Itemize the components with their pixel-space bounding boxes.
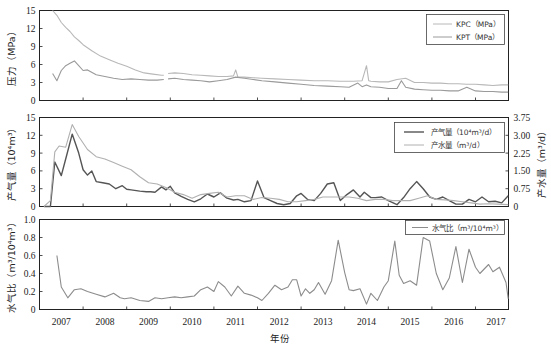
y-tick-label-right: 2.25 bbox=[514, 149, 531, 159]
y-tick-label: 9 bbox=[31, 42, 36, 52]
pressure-panel: 03691215 压力（MPa） KPC（MPa） KPT（MPa） bbox=[6, 6, 509, 106]
water-gas-ratio-panel: 00.20.40.60.81.0 20072008200920102011201… bbox=[6, 215, 509, 327]
legend-label-kpt: KPT（MPa） bbox=[456, 33, 499, 42]
y-tick-label: 6 bbox=[31, 166, 36, 176]
x-tick-label: 2007 bbox=[52, 317, 71, 327]
y-tick-label: 12 bbox=[26, 24, 36, 34]
x-tick-label: 2014 bbox=[357, 317, 376, 327]
y-tick-label: 0.4 bbox=[24, 269, 36, 279]
legend-label-kpc: KPC（MPa） bbox=[456, 20, 500, 29]
y-tick-label: 1.0 bbox=[24, 215, 36, 225]
y-tick-label: 6 bbox=[31, 60, 36, 70]
x-tick-label: 2009 bbox=[139, 317, 158, 327]
x-tick-label: 2016 bbox=[444, 317, 463, 327]
pressure-legend: KPC（MPa） KPT（MPa） bbox=[427, 15, 505, 45]
y-tick-label: 15 bbox=[26, 113, 36, 123]
legend-label-water: 产水量（m³/d） bbox=[431, 140, 484, 150]
series-line bbox=[57, 238, 508, 305]
y-tick-label: 0 bbox=[31, 202, 36, 212]
series-line bbox=[53, 61, 509, 92]
y-tick-label-right: 0.75 bbox=[514, 184, 531, 194]
y-tick-label: 0.6 bbox=[24, 251, 36, 261]
y-tick-label: 3 bbox=[31, 78, 36, 88]
x-tick-label: 2011 bbox=[226, 317, 245, 327]
x-tick-label: 2017 bbox=[487, 317, 506, 327]
pressure-y-axis-title: 压力（MPa） bbox=[6, 26, 17, 85]
production-panel: 03691215 00.751.502.253.003.75 产气量（10⁴m³… bbox=[6, 113, 547, 212]
x-tick-label: 2010 bbox=[183, 317, 202, 327]
ratio-legend: 水气比（m³/10⁴m³） bbox=[406, 221, 505, 235]
legend-label-gas: 产气量（10⁴m³/d） bbox=[431, 127, 496, 137]
y-tick-label: 0.2 bbox=[24, 287, 36, 297]
y-tick-label: 0.8 bbox=[24, 233, 36, 243]
y-tick-label-right: 0 bbox=[514, 202, 519, 212]
y-tick-label: 15 bbox=[26, 6, 36, 16]
x-tick-label: 2015 bbox=[401, 317, 420, 327]
gas-production-y-axis-title: 产气量（10⁴m³） bbox=[6, 123, 17, 202]
y-tick-label: 9 bbox=[31, 149, 36, 159]
x-axis-title: 年份 bbox=[270, 333, 290, 344]
y-tick-label: 12 bbox=[26, 131, 36, 141]
production-legend: 产气量（10⁴m³/d） 产水量（m³/d） bbox=[395, 123, 505, 153]
x-tick-label: 2013 bbox=[313, 317, 332, 327]
y-tick-label-right: 3.75 bbox=[514, 113, 531, 123]
y-tick-label-right: 3.00 bbox=[514, 131, 531, 141]
y-tick-label: 0 bbox=[31, 96, 36, 106]
y-tick-label: 0 bbox=[31, 305, 36, 315]
x-tick-label: 2012 bbox=[270, 317, 289, 327]
pressure-y-ticks: 03691215 bbox=[26, 6, 476, 106]
production-y-ticks-right: 00.751.502.253.003.75 bbox=[506, 113, 531, 212]
water-production-y-axis-title: 产水量（m³/d） bbox=[536, 126, 547, 198]
x-tick-label: 2008 bbox=[95, 317, 114, 327]
ratio-y-axis-title: 水气比（m³/10⁴m³） bbox=[6, 217, 17, 312]
production-chart: 03691215 压力（MPa） KPC（MPa） KPT（MPa） 03691… bbox=[0, 0, 551, 353]
ratio-lines bbox=[57, 238, 508, 305]
y-tick-label-right: 1.50 bbox=[514, 166, 531, 176]
y-tick-label: 3 bbox=[31, 184, 36, 194]
legend-label-ratio: 水气比（m³/10⁴m³） bbox=[432, 223, 503, 233]
